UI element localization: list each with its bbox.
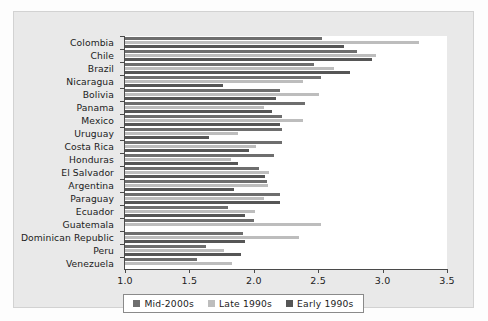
axis-tick-label: 1.5 [182,275,198,286]
bar [125,149,249,152]
category-tick [120,257,124,258]
category-tick [120,140,124,141]
bar [125,71,350,74]
bar [125,58,372,61]
value-axis-line [124,269,447,270]
bar [125,136,209,139]
legend-swatch-icon [208,300,215,307]
legend-label: Mid-2000s [144,298,194,309]
category-tick [120,192,124,193]
bar [125,201,280,204]
category-label: Brazil [14,63,120,74]
legend-item[interactable]: Late 1990s [208,298,272,309]
axis-tick [383,269,384,273]
axis-tick-label: 1.0 [117,275,133,286]
legend-swatch-icon [133,300,140,307]
category-tick [120,179,124,180]
category-label: Uruguay [14,128,120,139]
axis-tick-label: 2.0 [246,275,262,286]
chart-figure: ColombiaChileBrazilNicaraguaBoliviaPanam… [0,0,488,321]
legend-swatch-icon [286,300,293,307]
category-tick [120,166,124,167]
axis-tick [318,269,319,273]
bar [125,240,245,243]
category-label: Honduras [14,154,120,165]
category-tick [120,88,124,89]
bar [125,262,232,265]
axis-tick [189,269,190,273]
category-label: Chile [14,50,120,61]
axis-tick [254,269,255,273]
bar [125,123,280,126]
bar [125,84,223,87]
bar [125,110,272,113]
bar [125,45,344,48]
category-label: Mexico [14,115,120,126]
legend-item[interactable]: Mid-2000s [133,298,194,309]
category-tick [120,153,124,154]
category-tick [120,218,124,219]
category-label: El Salvador [14,167,120,178]
legend-label: Late 1990s [219,298,272,309]
category-tick [120,101,124,102]
category-tick [120,49,124,50]
axis-tick-label: 3.0 [375,275,391,286]
category-label: Ecuador [14,206,120,217]
legend: Mid-2000sLate 1990sEarly 1990s [14,294,473,313]
bar [125,253,241,256]
category-label: Costa Rica [14,141,120,152]
category-tick [120,231,124,232]
category-label: Paraguay [14,193,120,204]
category-label: Venezuela [14,258,120,269]
bar [125,188,234,191]
chart-panel: ColombiaChileBrazilNicaraguaBoliviaPanam… [13,11,474,308]
axis-tick [125,269,126,273]
category-tick [120,205,124,206]
category-label: Nicaragua [14,76,120,87]
category-tick [120,244,124,245]
category-labels: ColombiaChileBrazilNicaraguaBoliviaPanam… [14,36,120,270]
legend-box: Mid-2000sLate 1990sEarly 1990s [123,294,363,313]
legend-label: Early 1990s [297,298,354,309]
axis-tick-label: 3.5 [439,275,455,286]
category-label: Guatemala [14,219,120,230]
bar [125,162,238,165]
category-tick [120,127,124,128]
category-label: Dominican Republic [14,232,120,243]
category-label: Peru [14,245,120,256]
category-label: Panama [14,102,120,113]
legend-item[interactable]: Early 1990s [286,298,354,309]
bar [125,97,276,100]
category-tick [120,62,124,63]
axis-tick-label: 2.5 [310,275,326,286]
category-label: Bolivia [14,89,120,100]
category-tick [120,75,124,76]
bar [125,223,321,226]
category-label: Colombia [14,37,120,48]
category-label: Argentina [14,180,120,191]
bar [125,214,245,217]
category-tick [120,36,124,37]
bar [125,175,265,178]
axis-tick [447,269,448,273]
category-tick [120,114,124,115]
